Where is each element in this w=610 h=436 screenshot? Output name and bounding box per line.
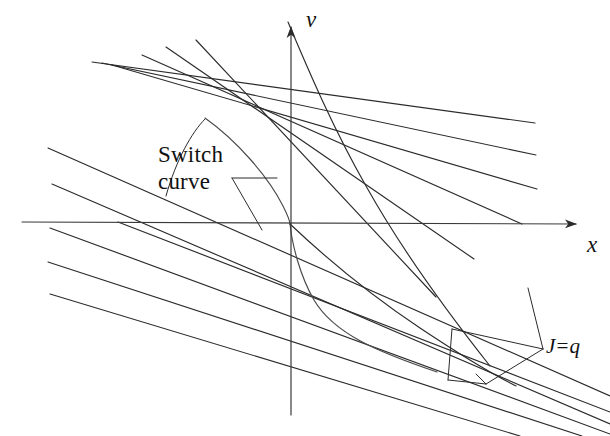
- diagram-canvas: [0, 0, 610, 436]
- axes: [22, 27, 576, 415]
- v-axis-label: v: [306, 6, 316, 33]
- cost-level-label: J=q: [546, 334, 580, 359]
- contour-line: [196, 40, 436, 297]
- lower-contour-fan: [48, 148, 610, 436]
- jq-leader-lines: [448, 288, 543, 384]
- x-axis: [22, 222, 576, 224]
- switch-curve-label-line2: curve: [158, 169, 210, 194]
- jq-leader-lower-tick: [476, 374, 486, 384]
- trajectory-curve-outer: [288, 22, 490, 366]
- jq-contour-edge-bottom: [448, 380, 486, 384]
- contour-line: [48, 262, 582, 436]
- phase-plane-figure: Switchcurve v x J=q: [0, 0, 610, 436]
- switch-curve-lower-branch: [290, 224, 437, 372]
- contour-line: [118, 222, 610, 412]
- contour-line: [92, 62, 535, 123]
- switch-curve-label: Switchcurve: [158, 141, 223, 195]
- x-axis-label: x: [587, 231, 597, 258]
- contour-line: [50, 228, 610, 434]
- jq-leader-top: [528, 288, 543, 349]
- contour-line: [52, 184, 610, 424]
- switch-curve-label-line1: Switch: [158, 142, 223, 167]
